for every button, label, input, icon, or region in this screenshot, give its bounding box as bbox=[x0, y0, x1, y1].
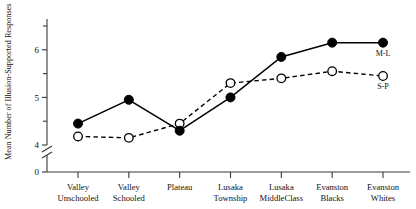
x-category-label-line2: Unschooled bbox=[57, 193, 99, 203]
data-point-sp bbox=[74, 132, 83, 141]
y-tick-label-zero: 0 bbox=[35, 167, 40, 177]
data-point-sp bbox=[379, 72, 388, 81]
data-point-ml bbox=[277, 52, 286, 61]
data-point-ml bbox=[379, 38, 388, 47]
y-tick-label: 4 bbox=[35, 140, 40, 150]
data-point-ml bbox=[226, 93, 235, 102]
data-point-ml bbox=[328, 38, 337, 47]
x-category-label-line2: Whites bbox=[371, 193, 396, 203]
axis-break-mark-top bbox=[42, 146, 52, 152]
x-axis-category-labels: ValleyUnschooledValleySchooledPlateauLus… bbox=[57, 182, 399, 203]
x-axis-ticks bbox=[78, 172, 383, 178]
line-chart-canvas: Mean Number of Illusion-Supported Respon… bbox=[0, 0, 416, 209]
y-axis bbox=[42, 19, 52, 172]
y-tick-label: 5 bbox=[35, 93, 40, 103]
x-category-label: Lusaka bbox=[218, 182, 243, 192]
x-category-label-line2: Schooled bbox=[113, 193, 146, 203]
data-point-sp bbox=[226, 79, 235, 88]
data-point-ml bbox=[74, 119, 83, 128]
x-category-label-line2: Blacks bbox=[320, 193, 344, 203]
data-point-sp bbox=[125, 134, 134, 143]
series-label-ml: M-L bbox=[376, 49, 391, 58]
x-category-label: Valley bbox=[67, 182, 90, 192]
data-point-sp bbox=[277, 74, 286, 83]
series-label-sp: S-P bbox=[377, 82, 389, 91]
data-point-sp bbox=[328, 67, 337, 76]
x-category-label: Evanston bbox=[316, 182, 349, 192]
x-category-label-line2: MiddleClass bbox=[260, 193, 304, 203]
x-category-label-line2: Township bbox=[214, 193, 248, 203]
series-points-sp bbox=[74, 67, 388, 142]
chart-figure: Mean Number of Illusion-Supported Respon… bbox=[0, 0, 416, 209]
data-point-ml bbox=[124, 95, 133, 104]
y-axis-title: Mean Number of Illusion-Supported Respon… bbox=[4, 4, 13, 160]
x-category-label: Valley bbox=[118, 182, 141, 192]
y-axis-tick-labels: 4560 bbox=[35, 45, 40, 177]
x-category-label: Plateau bbox=[167, 182, 193, 192]
x-category-label: Lusaka bbox=[269, 182, 294, 192]
x-category-label: Evanston bbox=[367, 182, 400, 192]
y-tick-label: 6 bbox=[35, 45, 40, 55]
data-point-ml bbox=[175, 126, 184, 135]
